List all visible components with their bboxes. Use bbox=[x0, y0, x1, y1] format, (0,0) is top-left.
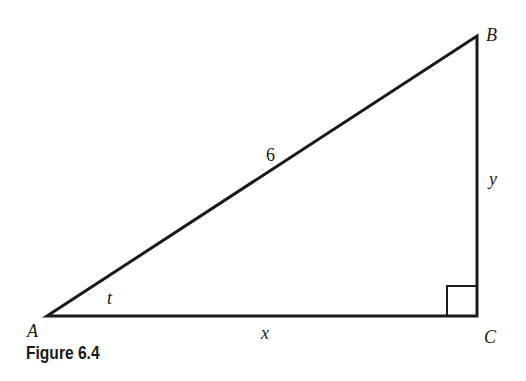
right-angle-marker bbox=[447, 286, 477, 316]
vertex-label-a: A bbox=[27, 322, 38, 340]
triangle-figure: A B C 6 x y t Figure 6.4 bbox=[0, 0, 526, 381]
side-x-label: x bbox=[261, 324, 269, 342]
angle-t-label: t bbox=[107, 289, 112, 307]
triangle-abc bbox=[47, 36, 477, 316]
hypotenuse-label: 6 bbox=[266, 146, 275, 164]
side-y-label: y bbox=[489, 170, 497, 188]
vertex-label-b: B bbox=[486, 26, 497, 44]
figure-caption: Figure 6.4 bbox=[26, 342, 100, 364]
vertex-label-c: C bbox=[484, 328, 496, 346]
